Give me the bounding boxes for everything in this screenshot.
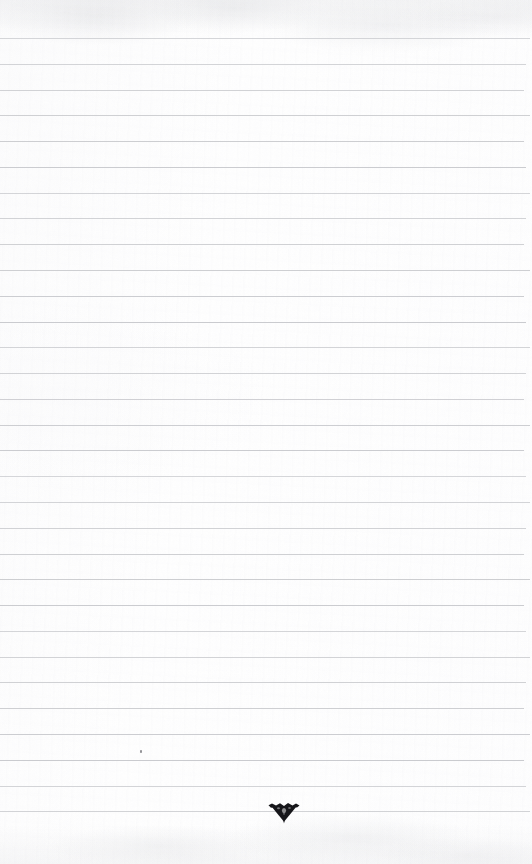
ruled-line (0, 502, 530, 503)
ruled-line (0, 38, 530, 39)
ruled-line (0, 425, 530, 426)
ruled-line (0, 657, 530, 658)
ruled-lines-layer (0, 0, 532, 864)
ruled-line (0, 631, 526, 632)
ruled-line (0, 270, 530, 271)
ruled-line (0, 579, 530, 580)
ruled-line (0, 708, 524, 709)
ruled-line (0, 244, 524, 245)
ruled-line (0, 115, 530, 116)
ruled-line (0, 605, 524, 606)
ink-speck (140, 750, 142, 753)
ruled-line (0, 218, 526, 219)
ruled-line (0, 296, 524, 297)
ruled-line (0, 554, 524, 555)
ruled-line (0, 476, 526, 477)
ruled-line (0, 141, 524, 142)
ink-triangle-mark (267, 802, 301, 824)
scanned-page (0, 0, 532, 864)
ruled-line (0, 734, 530, 735)
ruled-line (0, 373, 526, 374)
ruled-line (0, 399, 524, 400)
ruled-line (0, 786, 526, 787)
ruled-line (0, 90, 524, 91)
ruled-line (0, 347, 530, 348)
ruled-line (0, 760, 524, 761)
ruled-line (0, 682, 526, 683)
ruled-line (0, 528, 526, 529)
ruled-line (0, 811, 530, 812)
ruled-line (0, 193, 530, 194)
ruled-line (0, 322, 526, 323)
ruled-line (0, 64, 526, 65)
ruled-line (0, 167, 526, 168)
ruled-line (0, 450, 524, 451)
